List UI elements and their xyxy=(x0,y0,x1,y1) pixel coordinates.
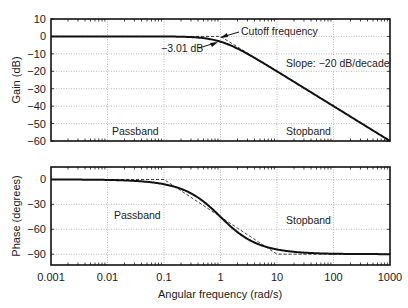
minus-3db-arrowhead-icon xyxy=(210,42,218,47)
x-tick-label: 0.01 xyxy=(97,271,118,283)
phase-passband-label: Passband xyxy=(114,209,161,221)
cutoff-arrowhead-icon xyxy=(220,33,228,38)
y-tick-label: 0 xyxy=(40,30,46,42)
y-tick-label: −10 xyxy=(27,48,46,60)
y-tick-label: −20 xyxy=(27,65,46,77)
gain-panel: 100−10−20−30−40−50−60 Gain (dB) Cutoff f… xyxy=(10,13,390,147)
phase-y-axis-label: Phase (degrees) xyxy=(10,175,22,256)
y-tick-label: −60 xyxy=(27,135,46,147)
gain-stopband-label: Stopband xyxy=(286,125,331,137)
phase-stopband-label: Stopband xyxy=(286,214,331,226)
slope-label: Slope: −20 dB/decade xyxy=(286,57,390,69)
y-tick-label: −30 xyxy=(27,198,46,210)
x-tick-label: 0.1 xyxy=(156,271,171,283)
phase-panel: 0−30−60−90 Phase (degrees) Passband Stop… xyxy=(10,167,402,300)
x-axis-label: Angular frequency (rad/s) xyxy=(158,288,282,300)
x-tick-label: 1000 xyxy=(378,271,402,283)
y-tick-label: −40 xyxy=(27,100,46,112)
x-tick-label: 10 xyxy=(271,271,283,283)
gain-y-axis-label: Gain (dB) xyxy=(10,56,22,103)
y-tick-label: −90 xyxy=(27,248,46,260)
x-tick-label: 100 xyxy=(324,271,342,283)
cutoff-frequency-label: Cutoff frequency xyxy=(241,25,319,37)
gain-passband-label: Passband xyxy=(112,125,159,137)
phase-y-tick-labels: 0−30−60−90 xyxy=(27,173,46,260)
y-tick-label: −50 xyxy=(27,118,46,130)
x-tick-labels: 0.0010.010.11101001000 xyxy=(37,271,402,283)
y-tick-label: −60 xyxy=(27,223,46,235)
y-tick-label: 0 xyxy=(40,173,46,185)
y-tick-label: −30 xyxy=(27,83,46,95)
x-tick-label: 0.001 xyxy=(37,271,65,283)
gain-y-tick-labels: 100−10−20−30−40−50−60 xyxy=(27,13,46,147)
minus-3db-label: −3.01 dB xyxy=(161,42,203,54)
x-tick-label: 1 xyxy=(217,271,223,283)
bode-plot-figure: 100−10−20−30−40−50−60 Gain (dB) Cutoff f… xyxy=(0,0,408,308)
y-tick-label: 10 xyxy=(34,13,46,25)
